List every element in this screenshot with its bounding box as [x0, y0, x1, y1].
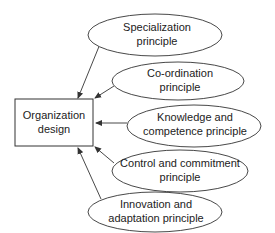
principle-label-line1: Control and commitment	[120, 157, 240, 169]
principle-label-line1: Specialization	[123, 21, 191, 33]
principle-label-line2: principle	[160, 171, 201, 183]
principle-specialization: Specialization principle	[88, 14, 222, 56]
principle-label-line2: competence principle	[143, 125, 247, 137]
principle-control-commitment: Control and commitment principle	[112, 150, 248, 192]
principle-label-line1: Innovation and	[120, 198, 192, 210]
principle-label-line2: principle	[137, 35, 178, 47]
center-label-line2: design	[38, 123, 70, 135]
principle-label-line2: principle	[160, 81, 201, 93]
principle-label-line2: adaptation principle	[108, 212, 203, 224]
principle-label-line1: Knowledge and	[157, 111, 233, 123]
arrow-innovation	[78, 148, 101, 199]
arrow-specialization	[78, 44, 100, 98]
organization-design-diagram: Organization design Specialization princ…	[0, 0, 275, 233]
principle-coordination: Co-ordination principle	[112, 62, 244, 100]
principle-innovation-adaptation: Innovation and adaptation principle	[88, 192, 222, 232]
center-label-line1: Organization	[23, 109, 85, 121]
arrow-coordination	[95, 86, 114, 98]
organization-design-box: Organization design	[15, 99, 93, 146]
principle-label-line1: Co-ordination	[147, 67, 213, 79]
arrow-control	[95, 147, 114, 163]
principle-knowledge-competence: Knowledge and competence principle	[127, 105, 261, 147]
